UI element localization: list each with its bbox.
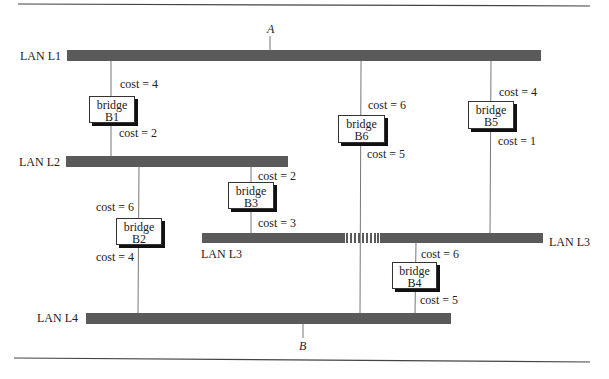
- b5-cost-top: cost = 4: [499, 85, 537, 99]
- bridge-b6: bridge B6: [338, 115, 385, 143]
- lan-l3-label-left: LAN L3: [201, 247, 242, 261]
- top-rule: [18, 4, 590, 6]
- bridge-b6-name: B6: [339, 130, 384, 142]
- lan-l3-gap-hatch: [346, 233, 379, 243]
- bridge-b5-name: B5: [469, 116, 513, 128]
- lan-l2-bar: [66, 156, 288, 167]
- lan-l4-bar: [86, 313, 451, 324]
- bridge-b2-name: B2: [117, 233, 161, 245]
- lan-l3-bar: [202, 233, 543, 243]
- b1-cost-bottom: cost = 2: [119, 126, 157, 140]
- bridged-lan-diagram: LAN L1 LAN L2 LAN L3 LAN L3 LAN L4 A B c…: [0, 0, 609, 379]
- bridge-b2: bridge B2: [116, 218, 162, 245]
- b4-cost-top: cost = 6: [421, 247, 459, 261]
- bridge-b4: bridge B4: [392, 262, 437, 289]
- b5-cost-bottom: cost = 1: [498, 134, 536, 148]
- b2-cost-top: cost = 6: [96, 200, 134, 214]
- b4-cost-bottom: cost = 5: [420, 293, 458, 307]
- bridge-b5: bridge B5: [468, 101, 514, 129]
- bridge-b3-name: B3: [229, 197, 273, 209]
- bridge-b1-name: B1: [90, 111, 134, 123]
- lan-l4-label: LAN L4: [37, 311, 78, 325]
- b2-cost-bottom: cost = 4: [96, 250, 134, 264]
- lan-l2-label: LAN L2: [19, 155, 60, 169]
- b5-link: [490, 61, 491, 234]
- lan-l1-label: LAN L1: [20, 49, 61, 63]
- lan-l1-bar: [67, 50, 541, 61]
- endpoint-a-label: A: [266, 22, 275, 36]
- bridge-b1: bridge B1: [89, 96, 135, 123]
- b6-cost-bottom: cost = 5: [367, 147, 405, 161]
- b6-cost-top: cost = 6: [368, 98, 406, 112]
- bridge-b4-name: B4: [393, 277, 436, 289]
- b3-cost-bottom: cost = 3: [258, 216, 296, 230]
- bottom-rule: [14, 358, 590, 362]
- lan-l3-label-right: LAN L3: [549, 235, 590, 249]
- b1-cost-top: cost = 4: [120, 77, 158, 91]
- b6-link: [360, 61, 361, 314]
- b3-cost-top: cost = 2: [258, 169, 296, 183]
- bridge-b3: bridge B3: [228, 182, 274, 209]
- endpoint-b-label: B: [299, 339, 307, 353]
